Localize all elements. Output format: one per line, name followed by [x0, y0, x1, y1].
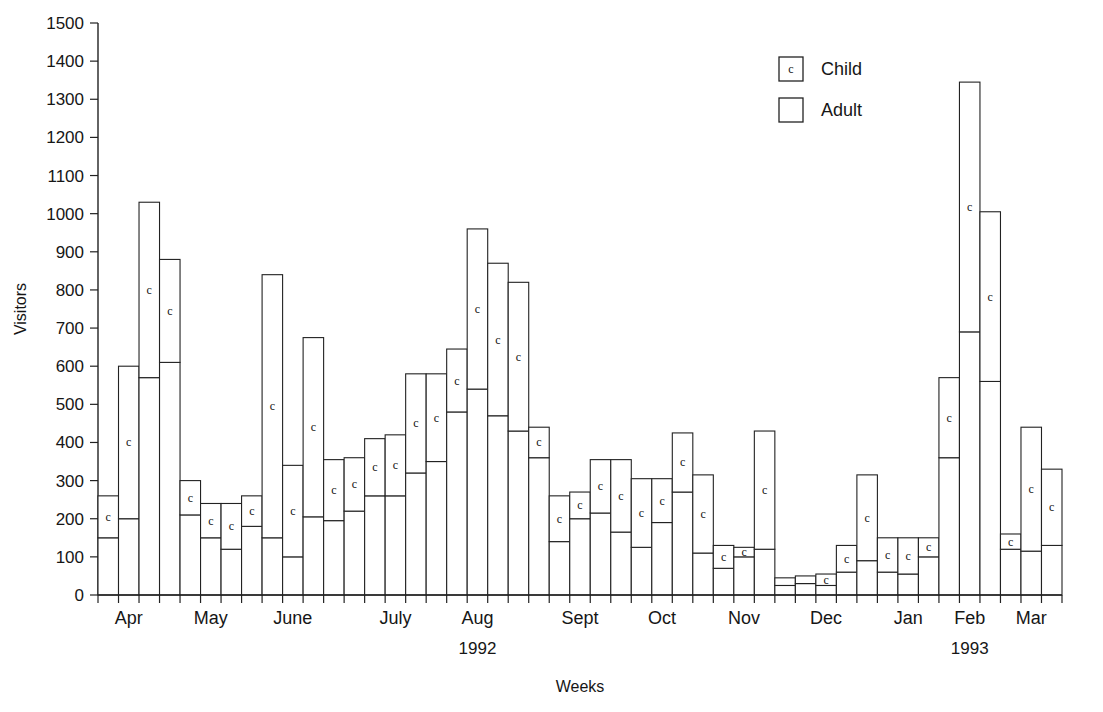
bar-stack: c	[713, 545, 734, 595]
bar-stack: c	[1000, 534, 1021, 595]
bar-stack: c	[283, 465, 304, 595]
child-segment-marker: c	[372, 460, 377, 474]
y-axis-title: Visitors	[12, 283, 29, 335]
bar-stack: c	[426, 374, 447, 595]
child-segment-marker: c	[434, 411, 439, 425]
child-segment-marker: c	[926, 540, 931, 554]
y-axis-tick-label: 600	[56, 357, 84, 376]
x-axis-month-label: June	[273, 608, 312, 628]
y-axis-title-label: Visitors	[12, 283, 29, 335]
bar-stack: c	[918, 538, 939, 595]
child-segment-marker: c	[249, 504, 254, 518]
bar-segment-adult	[426, 462, 447, 595]
x-axis-month-label: May	[194, 608, 228, 628]
child-segment-marker: c	[741, 545, 746, 559]
bar-segment-adult	[693, 553, 714, 595]
bar-segment-adult	[324, 521, 345, 595]
legend-item: Adult	[779, 98, 862, 122]
child-segment-marker: c	[659, 494, 664, 508]
bar-stack: c	[611, 460, 632, 595]
child-segment-marker: c	[393, 458, 398, 472]
child-segment-marker: c	[906, 549, 911, 563]
y-axis-tick-label: 1400	[46, 52, 84, 71]
child-segment-marker: c	[762, 483, 767, 497]
bar-segment-adult	[1000, 549, 1021, 595]
child-segment-marker: c	[536, 435, 541, 449]
bar-stack: c	[898, 538, 919, 595]
bar-segment-adult	[980, 381, 1001, 595]
y-axis-tick-label: 1500	[46, 14, 84, 33]
bar-stack: c	[672, 433, 693, 595]
chart-canvas: 0100200300400500600700800900100011001200…	[0, 0, 1103, 712]
y-axis-tick-label: 900	[56, 243, 84, 262]
bar-stack	[795, 576, 816, 595]
x-axis-month-label: Jan	[894, 608, 923, 628]
child-segment-marker: c	[1049, 500, 1054, 514]
bar-stack: c	[570, 492, 591, 595]
child-segment-marker: c	[700, 507, 705, 521]
visitors-bar-chart: 0100200300400500600700800900100011001200…	[0, 0, 1103, 712]
child-segment-marker: c	[823, 573, 828, 587]
bar-segment-adult	[508, 431, 529, 595]
bar-segment-adult	[283, 557, 304, 595]
bar-segment-adult	[611, 532, 632, 595]
bar-segment-adult	[385, 496, 406, 595]
y-axis-tick-label: 300	[56, 472, 84, 491]
child-segment-marker: c	[352, 477, 357, 491]
child-segment-marker: c	[290, 504, 295, 518]
bar-stack: c	[221, 503, 242, 595]
bar-stack: c	[488, 263, 509, 595]
bar-segment-child	[775, 578, 796, 586]
child-segment-marker: c	[598, 479, 603, 493]
bar-segment-adult	[467, 389, 488, 595]
child-segment-marker: c	[1029, 482, 1034, 496]
y-axis-tick-label: 200	[56, 510, 84, 529]
child-segment-marker: c	[188, 491, 193, 505]
child-segment-marker: c	[967, 200, 972, 214]
bar-segment-adult	[734, 557, 755, 595]
bar-stack: c	[590, 460, 611, 595]
bar-stack: c	[959, 82, 980, 595]
bar-stack: c	[980, 212, 1001, 595]
child-segment-marker: c	[577, 498, 582, 512]
child-segment-marker: c	[721, 550, 726, 564]
legend-label: Child	[821, 59, 862, 79]
child-segment-marker: c	[126, 435, 131, 449]
bar-segment-adult	[795, 584, 816, 595]
legend-label: Adult	[821, 100, 862, 120]
child-segment-marker: c	[229, 519, 234, 533]
bar-stack: c	[549, 496, 570, 595]
child-segment-marker: c	[557, 512, 562, 526]
bar-segment-adult	[201, 538, 222, 595]
x-axis-month-label: Mar	[1016, 608, 1047, 628]
bar-segment-adult	[180, 515, 201, 595]
bar-segment-adult	[652, 523, 673, 595]
child-segment-marker: c	[454, 374, 459, 388]
bar-segment-adult	[918, 557, 939, 595]
x-axis-month-label: July	[379, 608, 411, 628]
bar-stack: c	[119, 366, 140, 595]
bar-stack: c	[324, 460, 345, 595]
y-axis-tick-label: 500	[56, 395, 84, 414]
child-segment-marker: c	[516, 350, 521, 364]
bar-segment-child	[795, 576, 816, 584]
child-segment-marker: c	[495, 333, 500, 347]
bar-stack: c	[693, 475, 714, 595]
bar-segment-adult	[1041, 545, 1062, 595]
bar-stack: c	[652, 479, 673, 595]
bar-stack: c	[734, 545, 755, 595]
bar-stack: c	[242, 496, 263, 595]
bar-segment-adult	[877, 572, 898, 595]
legend-swatch-adult	[779, 98, 803, 122]
bar-segment-adult	[939, 458, 960, 595]
y-axis-tick-label: 400	[56, 433, 84, 452]
child-segment-marker: c	[864, 511, 869, 525]
bar-stack: c	[139, 202, 160, 595]
child-segment-marker: c	[1008, 535, 1013, 549]
bar-stack: c	[877, 538, 898, 595]
child-segment-marker: c	[618, 489, 623, 503]
child-segment-marker: c	[844, 552, 849, 566]
bar-segment-adult	[590, 513, 611, 595]
bar-segment-adult	[365, 496, 386, 595]
bar-segment-adult	[713, 568, 734, 595]
